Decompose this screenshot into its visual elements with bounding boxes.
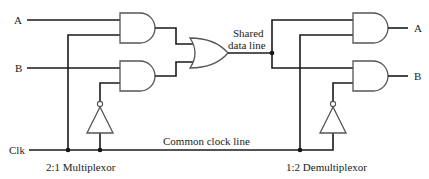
- mux-or-gate: [190, 38, 228, 68]
- and2-to-or-wire: [155, 62, 193, 76]
- mux-and-gate-2: [120, 61, 155, 91]
- mux-label: 2:1 Multiplexor: [46, 161, 116, 173]
- demux-inverter-bubble: [330, 101, 335, 106]
- shared-line-label-1: Shared: [233, 27, 264, 39]
- clock-line-label: Common clock line: [163, 135, 250, 147]
- multiplexor: [27, 13, 228, 152]
- shared-to-demux-and1-wire: [272, 20, 353, 53]
- demux-and-gate-1: [353, 13, 388, 43]
- mux-inverter-to-and2-wire: [100, 83, 120, 101]
- input-a-label: A: [14, 14, 22, 26]
- demultiplexor: [272, 13, 408, 152]
- output-b-label: B: [414, 70, 421, 82]
- output-a-label: A: [414, 22, 422, 34]
- demux-not-gate: [320, 107, 346, 133]
- shared-to-demux-and2-wire: [272, 53, 353, 68]
- clock-label: Clk: [9, 144, 25, 156]
- mux-not-gate: [87, 107, 113, 133]
- and1-to-or-wire: [155, 28, 193, 44]
- demux-label: 1:2 Demultiplexor: [286, 161, 367, 173]
- demux-and-gate-2: [353, 61, 388, 91]
- circuit-diagram: A B Clk Shared data line Common clock li…: [0, 0, 429, 179]
- input-b-label: B: [15, 62, 22, 74]
- mux-and-gate-1: [120, 13, 155, 43]
- demux-inverter-to-and2-wire: [333, 83, 353, 101]
- demux-inverter-input-wire: [300, 133, 333, 150]
- mux-inverter-bubble: [97, 101, 102, 106]
- shared-line-label-2: data line: [228, 39, 266, 51]
